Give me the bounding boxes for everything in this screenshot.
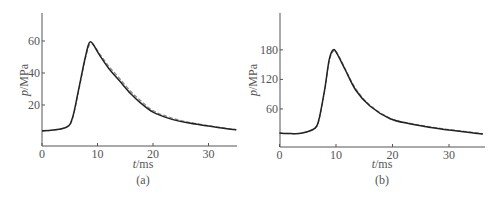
x-tick-label: 30 <box>203 147 215 161</box>
series-a-solid <box>42 42 236 131</box>
y-axis-label-a: p/MPa <box>17 63 31 97</box>
series-b-dashed <box>280 50 483 133</box>
y-tick-label: 180 <box>260 43 278 57</box>
y-tick-label: 60 <box>28 34 40 48</box>
y-tick-label: 120 <box>260 72 278 86</box>
chart-panel-a: 204060 0102030 p/MPa t/ms (a) <box>17 13 237 187</box>
x-tick-label: 10 <box>92 147 104 161</box>
series-b-solid <box>280 50 483 135</box>
x-axis-label-a: t/ms <box>133 157 154 171</box>
x-tick-label: 10 <box>330 148 342 162</box>
y-axis-label-b: p/MPa <box>246 63 260 97</box>
y-tick-label: 60 <box>266 102 278 116</box>
panel-label-a: (a) <box>136 173 149 187</box>
chart-panel-b: 60120180 0102030 p/MPa t/ms (b) <box>246 13 485 187</box>
x-axis-label-b: t/ms <box>372 157 393 171</box>
x-tick-label: 30 <box>443 148 455 162</box>
panel-label-b: (b) <box>375 173 389 187</box>
x-tick-label: 0 <box>277 148 283 162</box>
series-a-dashed <box>42 44 236 131</box>
figure: 204060 0102030 p/MPa t/ms (a) 60120180 0… <box>0 0 501 198</box>
y-tick-label: 20 <box>28 98 40 112</box>
x-tick-label: 0 <box>39 147 45 161</box>
